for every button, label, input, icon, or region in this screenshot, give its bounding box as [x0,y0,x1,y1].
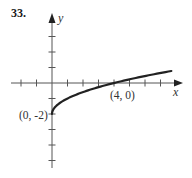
graph: 33. x y (0, -2) (4, 0) [0,0,192,178]
problem-number: 33. [11,6,26,20]
y-axis: y [49,11,65,168]
x-axis-label: x [172,85,179,99]
point-label-y-intercept: (0, -2) [19,109,48,122]
y-axis-arrow-icon [49,13,56,23]
x-axis: x [11,80,183,100]
y-axis-label: y [57,11,64,25]
point-label-x-intercept: (4, 0) [110,89,135,102]
